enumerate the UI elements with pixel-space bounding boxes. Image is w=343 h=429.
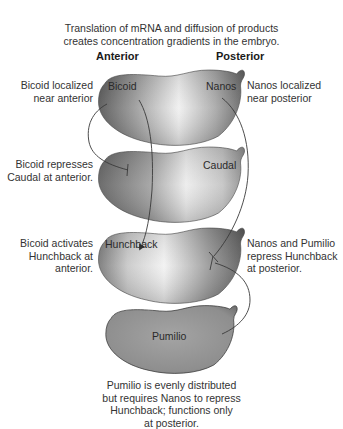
- annotation-bicoid-represses: Bicoid represses Caudal at anterior.: [7, 158, 93, 183]
- embryo-label-nanos: Nanos: [206, 80, 236, 92]
- embryo-label-hunchback: Hunchback: [105, 238, 158, 250]
- annotation-bicoid-activates: Bicoid activates Hunchback at anterior.: [20, 237, 93, 275]
- embryo-label-caudal: Caudal: [203, 159, 236, 171]
- annotation-bicoid-localized: Bicoid localized near anterior: [21, 79, 93, 104]
- anterior-label: Anterior: [96, 50, 139, 63]
- title-line-1: Translation of mRNA and diffusion of pro…: [0, 22, 343, 35]
- posterior-label: Posterior: [216, 50, 264, 63]
- title-line-2: creates concentration gradients in the e…: [0, 35, 343, 48]
- embryo-label-pumilio: Pumilio: [152, 330, 186, 342]
- pumilio-caption: Pumilio is evenly distributed but requir…: [0, 379, 343, 429]
- annotation-nanos-pumilio-repress: Nanos and Pumilio repress Hunchback at p…: [247, 237, 337, 275]
- annotation-nanos-localized: Nanos localized near posterior: [247, 79, 321, 104]
- diagram-title: Translation of mRNA and diffusion of pro…: [0, 22, 343, 47]
- embryo-label-bicoid: Bicoid: [108, 80, 137, 92]
